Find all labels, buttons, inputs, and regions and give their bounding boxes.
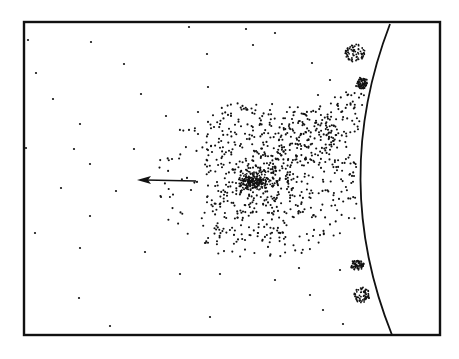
stipple-diagram: [0, 0, 459, 359]
surface-curve: [360, 24, 392, 335]
dense-particle-cloud: [158, 79, 367, 258]
frame-border: [24, 22, 440, 335]
surface-clumps: [345, 44, 370, 304]
sparse-dots: [25, 26, 344, 327]
